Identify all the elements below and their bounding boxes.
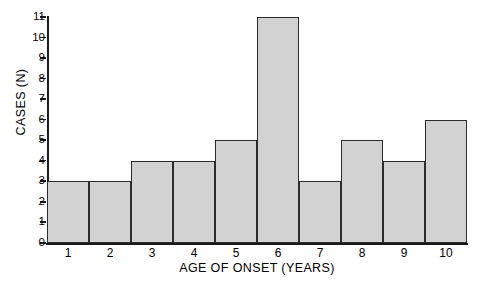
x-tick-label: 8: [341, 247, 383, 259]
histogram-chart: CASES (N) 01234567891011 12345678910 AGE…: [0, 0, 483, 292]
bar: [299, 181, 341, 243]
y-tick-label: 0: [23, 237, 45, 249]
bar: [215, 140, 257, 243]
plot-area: [47, 17, 467, 243]
x-tick-label: 2: [89, 247, 131, 259]
x-tick-label: 6: [257, 247, 299, 259]
x-tick-label: 4: [173, 247, 215, 259]
y-tick-label: 11: [23, 11, 45, 23]
bar: [341, 140, 383, 243]
bar: [173, 161, 215, 243]
bar: [257, 17, 299, 243]
x-tick-label: 3: [131, 247, 173, 259]
x-axis-title: AGE OF ONSET (YEARS): [47, 261, 467, 275]
y-tick-label: 1: [23, 216, 45, 228]
bar: [131, 161, 173, 243]
y-tick-label: 5: [23, 134, 45, 146]
x-tick-label: 5: [215, 247, 257, 259]
y-tick-label: 2: [23, 196, 45, 208]
x-tick-label: 1: [47, 247, 89, 259]
bar: [383, 161, 425, 243]
y-tick-label: 8: [23, 73, 45, 85]
x-tick-label: 10: [425, 247, 467, 259]
y-tick-label: 10: [23, 32, 45, 44]
y-tick-label: 4: [23, 155, 45, 167]
bar: [425, 120, 467, 243]
bar: [89, 181, 131, 243]
bar: [47, 181, 89, 243]
y-tick-label: 9: [23, 52, 45, 64]
x-tick-label: 7: [299, 247, 341, 259]
y-tick-label: 3: [23, 175, 45, 187]
y-tick-label: 6: [23, 114, 45, 126]
y-tick-label: 7: [23, 93, 45, 105]
x-tick-label: 9: [383, 247, 425, 259]
